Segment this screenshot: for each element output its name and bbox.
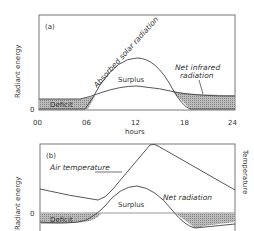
tick-24: 24 bbox=[228, 119, 237, 127]
surplus-label-b: Surplus bbox=[118, 201, 145, 209]
y-axis-label-a: Radiant energy bbox=[14, 45, 22, 98]
deficit-label-b: Deficit bbox=[50, 216, 73, 224]
surplus-label-a: Surplus bbox=[118, 76, 145, 84]
net-ir-arrow bbox=[199, 80, 203, 94]
net-rad-label: Net radiation bbox=[163, 193, 212, 202]
deficit-area-b-right bbox=[175, 213, 235, 228]
y-axis-label-b-right: Temperature bbox=[241, 149, 249, 194]
air-temp-label: Air temperature bbox=[49, 163, 110, 172]
panel-a: (a) Surplus Deficit Absorbed solar radia… bbox=[14, 15, 237, 136]
panel-b-label: (b) bbox=[46, 152, 56, 160]
tick-06: 06 bbox=[82, 119, 91, 127]
y-axis-label-b-left: Radiant energy bbox=[14, 177, 22, 230]
zero-tick-a: 0 bbox=[30, 106, 34, 114]
tick-00: 00 bbox=[33, 119, 42, 127]
deficit-label-a: Deficit bbox=[50, 101, 73, 109]
zero-tick-b: 0 bbox=[30, 210, 34, 218]
energy-balance-figure: (a) Surplus Deficit Absorbed solar radia… bbox=[0, 0, 254, 231]
x-axis-label: hours bbox=[125, 128, 145, 136]
tick-12: 12 bbox=[131, 119, 140, 127]
panel-a-label: (a) bbox=[45, 23, 55, 31]
chart-svg: (a) Surplus Deficit Absorbed solar radia… bbox=[0, 0, 254, 231]
panel-b: (b) Air temperature Net radiation Surplu… bbox=[14, 144, 249, 231]
net-ir-label-2: radiation bbox=[180, 71, 214, 80]
air-temperature-curve bbox=[40, 144, 235, 200]
tick-18: 18 bbox=[180, 119, 189, 127]
deficit-area-right bbox=[172, 91, 235, 109]
